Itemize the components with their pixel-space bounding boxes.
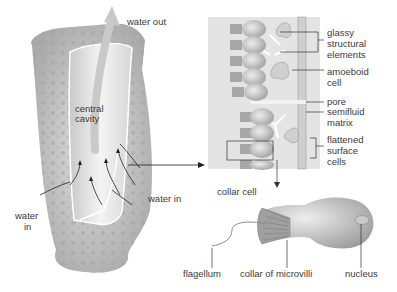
label-collar-of-microvilli: collar of microvilli [240,269,312,279]
nucleus-shape [355,216,369,225]
label-amoeboid-2: cell [327,78,341,88]
label-glassy-3: elements [327,50,366,60]
label-semifluid-1: semifluid [327,107,365,117]
label-water-in-right: water in [148,194,181,204]
big-collar-cell [212,197,374,248]
label-water-in-left-1: water [15,211,38,221]
label-flattened-3: cells [327,157,346,167]
label-nucleus: nucleus [345,269,378,279]
label-flattened-2: surface [327,146,358,156]
label-glassy-1: glassy [327,28,354,38]
label-flattened-1: flattened [327,135,363,145]
label-collar-cell: collar cell [217,187,257,197]
sponge-body [31,6,152,273]
label-amoeboid-1: amoeboid [327,67,369,77]
label-glassy-2: structural [327,39,366,49]
label-flagellum: flagellum [183,269,221,279]
label-semifluid-2: matrix [327,118,353,128]
label-central-cavity-2: cavity [75,114,99,124]
label-water-out: water out [127,17,166,27]
arrowhead-icon [198,162,205,168]
label-water-in-left-2: in [24,222,31,232]
